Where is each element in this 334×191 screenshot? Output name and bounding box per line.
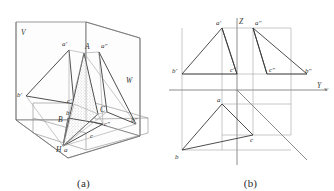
label-B-a: B	[58, 115, 63, 124]
panel-b-orthographic: Z X Y W a' a″ b' c' c″ b″ a c b (b)	[167, 0, 334, 191]
axis-y45	[237, 90, 307, 160]
label-c-front-b: c'	[230, 66, 235, 74]
label-a-top-b: a	[217, 96, 221, 104]
label-a-side-b: a″	[255, 19, 262, 27]
top-view-triangle	[182, 104, 253, 150]
panel-b-drawing: Z X Y W a' a″ b' c' c″ b″ a c b	[167, 0, 334, 170]
label-b-side-a: b″	[131, 116, 138, 124]
label-a-front-a: a'	[62, 40, 68, 48]
label-axis-z: Z	[239, 17, 244, 26]
label-c-side-a: c″	[104, 120, 110, 128]
label-c-side-b: c″	[269, 66, 275, 74]
label-a-front-b: a'	[216, 19, 222, 27]
label-c-front-a: c'	[67, 97, 72, 105]
label-b-front-a: b'	[17, 91, 23, 99]
label-axis-yw-subscript: W	[324, 87, 329, 92]
label-axis-yw: Y	[317, 81, 322, 90]
label-c-top-b: c	[250, 136, 254, 144]
label-b-side-b: b″	[305, 67, 312, 75]
label-a-top-a: a	[64, 146, 68, 154]
side-view-triangle	[253, 28, 307, 74]
label-plane-h: H	[55, 145, 62, 154]
label-A-a: A	[84, 42, 90, 51]
label-b-front-b: b'	[172, 67, 178, 75]
panel-a-pictorial: V W H a' A a″ b' c' B C b″ c″ a c b (a)	[0, 0, 167, 191]
label-b-top-b: b	[175, 153, 179, 161]
figure-container: V W H a' A a″ b' c' B C b″ c″ a c b (a)	[0, 0, 334, 191]
front-view-triangle	[182, 28, 237, 74]
caption-b: (b)	[167, 177, 334, 189]
caption-a: (a)	[0, 177, 167, 189]
label-plane-w: W	[126, 76, 133, 85]
panel-a-drawing: V W H a' A a″ b' c' B C b″ c″ a c b	[0, 0, 167, 170]
label-a-side-a: a″	[101, 42, 108, 50]
label-b-top-a: b	[66, 109, 70, 117]
